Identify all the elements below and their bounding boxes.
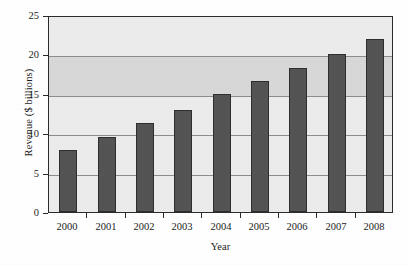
bar-2004 (213, 94, 231, 212)
bar-2000 (59, 150, 77, 212)
bar-2007 (328, 54, 346, 212)
x-tick-8 (355, 213, 356, 218)
y-tick-label-20: 20 (0, 50, 39, 61)
bar-2001 (98, 137, 116, 212)
y-tick-10 (43, 134, 48, 135)
y-tick-5 (43, 174, 48, 175)
bar-2006 (289, 68, 307, 212)
y-tick-15 (43, 95, 48, 96)
x-tick-5 (240, 213, 241, 218)
y-tick-label-10: 10 (0, 129, 39, 140)
bar-2008 (366, 39, 384, 212)
bar-2003 (174, 110, 192, 212)
bar-chart-figure: Revenue ($ billions) 0510152025 20002001… (0, 0, 408, 265)
y-tick-label-15: 15 (0, 90, 39, 101)
y-tick-0 (43, 213, 48, 214)
y-tick-25 (43, 16, 48, 17)
x-axis-title: Year (48, 241, 393, 252)
x-tick-3 (163, 213, 164, 218)
x-tick-2 (125, 213, 126, 218)
plot-area (48, 16, 393, 213)
x-tick-label-2008: 2008 (351, 222, 397, 233)
x-tick-1 (86, 213, 87, 218)
y-tick-label-5: 5 (0, 169, 39, 180)
y-tick-label-0: 0 (0, 208, 39, 219)
x-tick-4 (201, 213, 202, 218)
bar-2002 (136, 123, 154, 212)
x-tick-7 (316, 213, 317, 218)
bar-series (49, 17, 392, 212)
bar-2005 (251, 81, 269, 212)
y-tick-20 (43, 55, 48, 56)
x-tick-6 (278, 213, 279, 218)
y-tick-label-25: 25 (0, 11, 39, 22)
